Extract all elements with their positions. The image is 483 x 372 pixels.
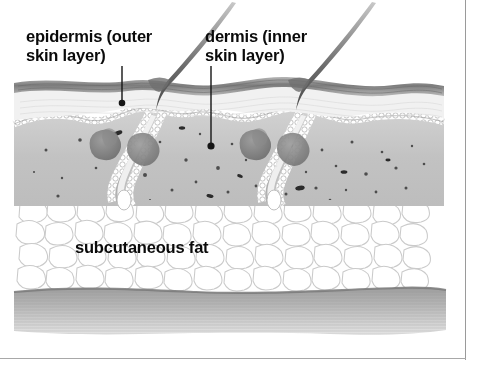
label-subcutaneous-fat: subcutaneous fat [75,238,208,257]
page-frame-bottom-rule [0,358,466,359]
label-epidermis: epidermis (outer skin layer) [26,27,152,65]
dermis-leader-dot [208,143,214,149]
epidermis-leader-dot [119,100,124,105]
label-dermis: dermis (inner skin layer) [205,27,307,65]
page-frame-right-rule [465,0,466,360]
figure-page: epidermis (outer skin layer) dermis (inn… [0,0,483,372]
